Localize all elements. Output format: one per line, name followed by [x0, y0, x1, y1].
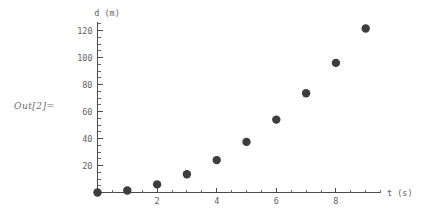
data-point: [242, 138, 250, 146]
x-tick-label: 8: [333, 196, 338, 206]
data-point: [153, 180, 161, 188]
data-point: [272, 115, 280, 123]
data-points: [93, 24, 370, 196]
y-tick-label: 20: [82, 161, 92, 171]
data-point: [332, 59, 340, 67]
x-tick-label: 4: [214, 196, 219, 206]
x-tick-label: 2: [155, 196, 160, 206]
y-axis-label: d (m): [94, 8, 120, 18]
y-tick-label: 80: [82, 80, 92, 90]
plot-axes: [98, 22, 381, 192]
data-point: [183, 170, 191, 178]
x-axis-label: t (s): [387, 188, 413, 198]
data-point: [213, 156, 221, 164]
data-point: [123, 186, 131, 194]
data-point: [302, 89, 310, 97]
scatter-plot: 2468 20406080100120 t (s) d (m): [0, 0, 421, 219]
y-tick-label: 120: [77, 26, 92, 36]
data-point: [93, 188, 101, 196]
x-tick-label: 6: [274, 196, 279, 206]
y-tick-label: 100: [77, 53, 92, 63]
data-point: [362, 24, 370, 32]
y-tick-label: 60: [82, 107, 92, 117]
y-axis-ticks: 20406080100120: [77, 24, 102, 193]
x-axis-ticks: 2468: [98, 188, 381, 206]
y-tick-label: 40: [82, 134, 92, 144]
